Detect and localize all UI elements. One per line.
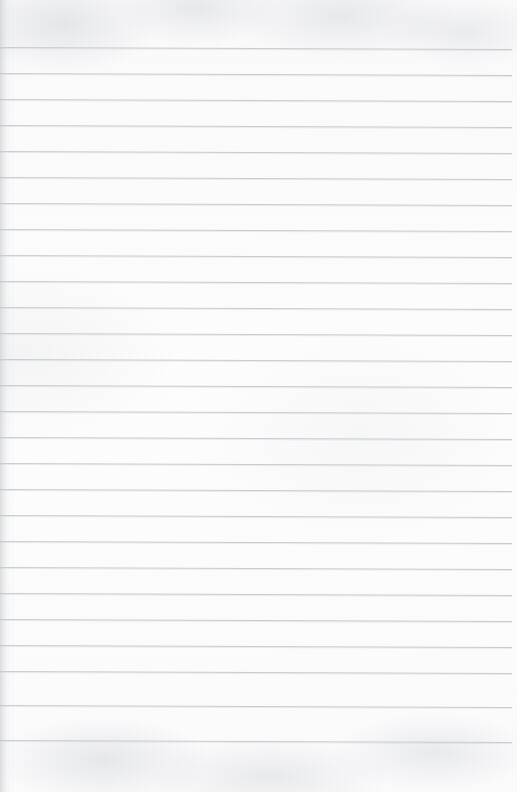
writing-area[interactable] bbox=[0, 0, 517, 792]
lined-paper-sheet bbox=[0, 0, 517, 792]
